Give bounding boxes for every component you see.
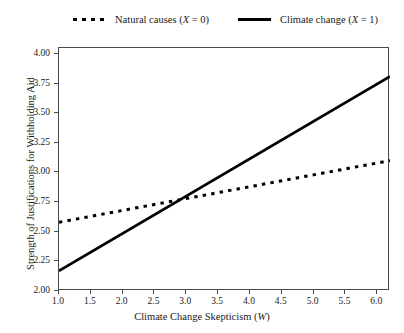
chart-container: Natural causes (X = 0) Climate change (X… bbox=[0, 0, 404, 333]
y-axis-title: Strength of Justifications for Withholdi… bbox=[25, 48, 36, 300]
x-tick-label: 5.0 bbox=[307, 296, 319, 306]
x-axis-title: Climate Change Skepticism (W) bbox=[0, 311, 404, 322]
x-tick-label: 4.5 bbox=[275, 296, 287, 306]
y-tick-label: 3.75 bbox=[33, 78, 50, 88]
series-line-natural-causes bbox=[59, 161, 390, 223]
x-tick-label: 6.0 bbox=[370, 296, 382, 306]
x-tick-label: 5.5 bbox=[339, 296, 351, 306]
y-tick-label: 3.50 bbox=[33, 107, 50, 117]
x-tick-label: 3.0 bbox=[179, 296, 191, 306]
y-tick-label: 2.00 bbox=[33, 285, 50, 295]
plot-area bbox=[58, 47, 389, 290]
x-tick-label: 2.0 bbox=[116, 296, 128, 306]
chart-legend: Natural causes (X = 0) Climate change (X… bbox=[0, 0, 404, 36]
legend-item-climate-change: Climate change (X = 1) bbox=[238, 14, 378, 25]
y-tick-label: 2.50 bbox=[33, 226, 50, 236]
series-line-climate-change bbox=[59, 76, 390, 270]
x-tick-label: 3.5 bbox=[211, 296, 223, 306]
legend-label-climate-change: Climate change (X = 1) bbox=[280, 14, 378, 25]
solid-line-swatch-icon bbox=[238, 14, 271, 25]
y-tick-label: 3.25 bbox=[33, 137, 50, 147]
legend-item-natural-causes: Natural causes (X = 0) bbox=[73, 14, 209, 25]
x-tick-label: 4.0 bbox=[243, 296, 255, 306]
x-tick-label: 1.5 bbox=[84, 296, 96, 306]
legend-label-natural-causes: Natural causes (X = 0) bbox=[115, 14, 209, 25]
y-tick-label: 4.00 bbox=[33, 48, 50, 58]
x-tick-label: 1.0 bbox=[52, 296, 64, 306]
dotted-line-swatch-icon bbox=[73, 14, 106, 25]
y-tick-label: 3.00 bbox=[33, 166, 50, 176]
plot-lines bbox=[59, 48, 390, 291]
y-tick-label: 2.25 bbox=[33, 255, 50, 265]
x-tick-label: 2.5 bbox=[148, 296, 160, 306]
y-tick-label: 2.75 bbox=[33, 196, 50, 206]
